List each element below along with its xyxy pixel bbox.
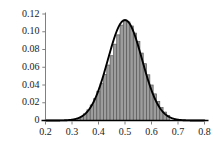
histogram-bar: [103, 74, 106, 120]
histogram-bar: [107, 65, 110, 120]
y-tick-label: 0: [35, 115, 40, 125]
histogram-bar: [123, 21, 126, 120]
histogram-bar: [127, 22, 130, 121]
x-tick-label: 0.3: [58, 127, 86, 137]
y-tick-label: 0.02: [22, 97, 40, 107]
histogram-bar: [133, 33, 136, 120]
histogram-bar: [117, 35, 120, 121]
histogram-figure: 00.020.040.060.080.100.12 0.20.30.40.50.…: [0, 0, 213, 141]
y-axis: [42, 13, 45, 121]
histogram-bar: [120, 25, 123, 120]
histogram-bar: [100, 83, 103, 120]
y-tick-label: 0.08: [22, 44, 40, 54]
histogram-bar: [130, 26, 133, 121]
y-tick-label: 0.10: [22, 26, 40, 36]
y-tick-label: 0.12: [22, 9, 40, 19]
x-tick-label: 0.7: [164, 127, 192, 137]
y-tick-label: 0.06: [22, 62, 40, 72]
histogram-bar: [113, 44, 116, 120]
x-tick-label: 0.8: [191, 127, 214, 137]
x-tick-label: 0.5: [111, 127, 139, 137]
x-axis: [42, 121, 209, 125]
x-tick-label: 0.4: [85, 127, 113, 137]
x-tick-label: 0.2: [32, 127, 60, 137]
y-tick-label: 0.04: [22, 80, 40, 90]
x-tick-label: 0.6: [138, 127, 166, 137]
histogram-bar: [110, 56, 113, 121]
